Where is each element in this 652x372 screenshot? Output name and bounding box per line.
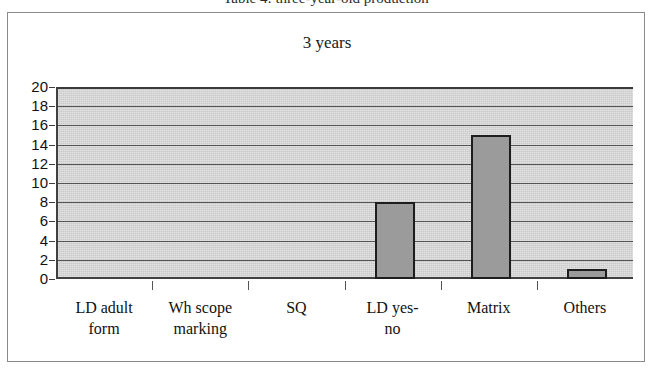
x-axis-label-line: form xyxy=(56,318,152,339)
y-axis-tick-mark-16 xyxy=(49,125,55,126)
x-axis-tick-mark-3 xyxy=(345,281,346,290)
x-axis-label-line: no xyxy=(345,318,441,339)
x-axis-label-ld-yes-no: LD yes-no xyxy=(345,297,441,339)
x-axis-tick-mark-1 xyxy=(152,281,153,290)
y-axis-tick-mark-6 xyxy=(49,221,55,222)
x-axis-label-line: LD yes- xyxy=(345,297,441,318)
gridline-4 xyxy=(58,241,633,242)
gridline-14 xyxy=(58,145,633,146)
y-axis-tick-mark-2 xyxy=(49,260,55,261)
plot-background-texture xyxy=(58,87,633,277)
y-axis-tick-mark-4 xyxy=(49,241,55,242)
y-axis-tick-label-16: 16 xyxy=(14,117,48,132)
bar-matrix xyxy=(471,135,511,279)
x-axis-label-wh-scope-marking: Wh scopemarking xyxy=(152,297,248,339)
bar-ld-yes-no xyxy=(375,202,415,279)
y-axis-tick-label-8: 8 xyxy=(14,194,48,209)
x-axis-label-others: Others xyxy=(537,297,633,318)
x-axis-label-matrix: Matrix xyxy=(441,297,537,318)
x-axis-label-line: Matrix xyxy=(441,297,537,318)
y-axis-tick-label-10: 10 xyxy=(14,175,48,190)
gridline-10 xyxy=(58,183,633,184)
gridline-12 xyxy=(58,164,633,165)
y-axis-tick-label-12: 12 xyxy=(14,156,48,171)
x-axis-label-line: marking xyxy=(152,318,248,339)
x-axis-label-line: SQ xyxy=(248,297,344,318)
chart-figure-frame: 3 years 20181614121086420 LD adultformWh… xyxy=(7,12,645,362)
y-axis-tick-mark-8 xyxy=(49,202,55,203)
gridline-2 xyxy=(58,260,633,261)
y-axis-tick-label-20: 20 xyxy=(14,79,48,94)
y-axis-tick-mark-18 xyxy=(49,106,55,107)
y-axis-tick-mark-0 xyxy=(49,279,55,280)
x-axis-label-line: Others xyxy=(537,297,633,318)
y-axis-tick-mark-10 xyxy=(49,183,55,184)
gridline-6 xyxy=(58,221,633,222)
x-axis-label-sq: SQ xyxy=(248,297,344,318)
bar-others xyxy=(567,269,607,279)
gridline-16 xyxy=(58,125,633,126)
x-axis-label-line: Wh scope xyxy=(152,297,248,318)
x-axis-label-line: LD adult xyxy=(56,297,152,318)
x-axis-label-ld-adult-form: LD adultform xyxy=(56,297,152,339)
y-axis-tick-label-18: 18 xyxy=(14,98,48,113)
y-axis-tick-label-14: 14 xyxy=(14,137,48,152)
y-axis-tick-label-2: 2 xyxy=(14,252,48,267)
table-caption-clip: Table 4: three-year-old production xyxy=(0,0,652,11)
table-caption: Table 4: three-year-old production xyxy=(0,0,652,7)
x-axis-tick-mark-5 xyxy=(537,281,538,290)
chart-title: 3 years xyxy=(8,33,646,53)
plot-area xyxy=(56,87,633,279)
gridline-8 xyxy=(58,202,633,203)
y-axis-tick-label-0: 0 xyxy=(14,271,48,286)
y-axis-tick-mark-14 xyxy=(49,145,55,146)
y-axis-tick-mark-20 xyxy=(49,87,55,88)
y-axis-tick-mark-12 xyxy=(49,164,55,165)
gridline-20 xyxy=(58,87,633,89)
gridline-18 xyxy=(58,106,633,107)
x-axis-tick-mark-4 xyxy=(441,281,442,290)
y-axis-tick-label-4: 4 xyxy=(14,233,48,248)
y-axis-tick-label-6: 6 xyxy=(14,213,48,228)
x-axis-tick-mark-2 xyxy=(248,281,249,290)
